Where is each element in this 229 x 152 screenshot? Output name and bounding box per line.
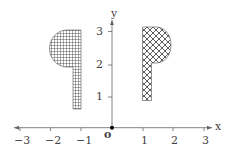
x-tick-label: 2: [171, 134, 178, 147]
x-axis-label: x: [215, 120, 222, 133]
coordinate-diagram: x −3 −2 −1 1 2 3 o y 3 2 1: [0, 0, 229, 152]
y-tick-label: 3: [96, 25, 103, 38]
y-tick-label: 2: [96, 58, 103, 71]
x-tick-label: 1: [141, 134, 148, 147]
y-axis: [108, 20, 114, 128]
x-tick-label: −3: [14, 134, 30, 147]
y-tick-label: 1: [96, 90, 103, 103]
x-tick-label: 3: [202, 134, 209, 147]
right-shape: [143, 27, 172, 101]
x-tick-label: −1: [76, 134, 92, 147]
diagram-svg: x −3 −2 −1 1 2 3 o y 3 2 1: [0, 0, 229, 152]
origin-label: o: [104, 128, 111, 141]
y-axis-label: y: [110, 7, 118, 20]
origin-dot: [110, 126, 114, 130]
x-tick-label: −2: [45, 134, 61, 147]
left-shape: [50, 30, 81, 109]
